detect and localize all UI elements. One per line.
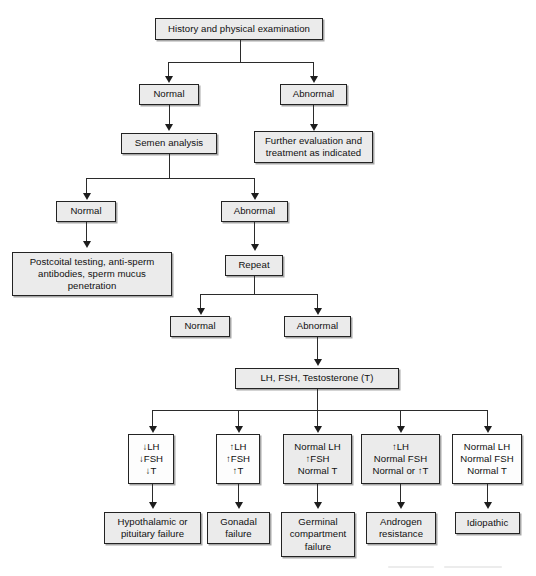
arrow-to-dx-hypothalamic (149, 502, 157, 509)
arrow-to-dx-idiopathic (484, 502, 492, 509)
arrow-to-hormone-panel (314, 359, 322, 366)
node-normal-3[interactable]: Normal (170, 316, 230, 337)
node-hormone-panel-high-lh-fsh-t[interactable]: ↑LH ↑FSH ↑T (216, 434, 260, 484)
arrow-to-normal-1 (165, 76, 173, 83)
connector-abnormal1-to-further (313, 105, 314, 126)
node-repeat[interactable]: Repeat (225, 255, 283, 276)
node-label-line-1: Normal LH (464, 441, 510, 453)
connector-level7-drop-4 (400, 410, 401, 428)
node-label: History and physical examination (168, 23, 310, 35)
arrow-to-dx-androgen (397, 502, 405, 509)
connector-abnormal3-to-hormones (317, 337, 318, 361)
connector-level7-bus (152, 410, 488, 411)
node-history-and-physical-examination[interactable]: History and physical examination (155, 18, 323, 40)
arrow-to-abnormal-1 (310, 76, 318, 83)
connector-semen-stem (169, 154, 170, 178)
node-label-line-3: Normal T (298, 465, 338, 477)
connector-level7-drop-5 (487, 410, 488, 428)
node-label: Repeat (238, 259, 269, 271)
node-label-line-2: Normal FSH (374, 453, 427, 465)
connector-history-stem (240, 40, 241, 62)
connector-level3-drop-left (86, 178, 87, 195)
connector-hormones-stem (317, 389, 318, 410)
node-label-line-2: pituitary failure (121, 528, 184, 540)
connector-panel1-to-dx1 (152, 484, 153, 504)
arrow-to-abnormal-3 (314, 308, 322, 315)
node-normal-2[interactable]: Normal (56, 201, 116, 222)
connector-abnormal2-to-repeat (254, 222, 255, 246)
arrow-to-postcoital-testing (83, 241, 91, 248)
arrow-to-further-evaluation (310, 124, 318, 131)
node-label-line-3: penetration (68, 280, 117, 292)
scan-artifact-2 (444, 566, 502, 568)
node-label-line-2: antibodies, sperm mucus (38, 268, 146, 280)
arrow-to-semen-analysis (165, 124, 173, 131)
node-lh-fsh-testosterone[interactable]: LH, FSH, Testosterone (T) (235, 368, 399, 389)
node-label-line-2: ↑FSH (226, 453, 250, 465)
node-label: Abnormal (293, 88, 334, 100)
node-diagnosis-gonadal-failure[interactable]: Gonadal failure (207, 512, 270, 544)
node-label-line-3: failure (305, 541, 331, 553)
node-postcoital-testing[interactable]: Postcoital testing, anti-sperm antibodie… (12, 252, 172, 296)
node-normal-1[interactable]: Normal (139, 84, 199, 105)
node-label-line-1: Germinal (298, 516, 337, 528)
node-diagnosis-idiopathic[interactable]: Idiopathic (455, 512, 520, 534)
node-label-line-1: Normal LH (294, 441, 340, 453)
node-hormone-panel-low-lh-fsh-t[interactable]: ↓LH ↓FSH ↓T (128, 434, 174, 484)
node-diagnosis-androgen-resistance[interactable]: Androgen resistance (366, 512, 436, 544)
node-label: Abnormal (234, 205, 275, 217)
connector-panel4-to-dx4 (400, 484, 401, 504)
node-diagnosis-germinal-compartment-failure[interactable]: Germinal compartment failure (281, 512, 355, 557)
node-hormone-panel-all-normal[interactable]: Normal LH Normal FSH Normal T (452, 434, 522, 484)
flowchart-canvas: History and physical examination Normal … (0, 0, 536, 576)
node-label-line-1: ↑LH (229, 441, 246, 453)
connector-repeat-stem (254, 276, 255, 294)
node-label: Abnormal (297, 320, 338, 332)
node-label: Idiopathic (467, 517, 509, 529)
node-abnormal-1[interactable]: Abnormal (280, 84, 347, 105)
arrow-to-abnormal-2 (251, 193, 259, 200)
node-label-line-2: treatment as indicated (266, 147, 362, 159)
connector-panel5-to-dx5 (487, 484, 488, 504)
arrow-to-panel-2 (235, 426, 243, 433)
node-label-line-1: Androgen (380, 516, 422, 528)
node-label: LH, FSH, Testosterone (T) (260, 372, 373, 384)
node-label-line-1: ↑LH (392, 441, 409, 453)
arrow-to-normal-3 (197, 308, 205, 315)
node-hormone-panel-high-lh-normal-fsh[interactable]: ↑LH Normal FSH Normal or ↑T (361, 434, 440, 484)
node-hormone-panel-normal-lh-high-fsh[interactable]: Normal LH ↑FSH Normal T (283, 434, 352, 484)
node-further-evaluation-and-treatment[interactable]: Further evaluation and treatment as indi… (254, 131, 373, 163)
node-label-line-1: Hypothalamic or (117, 516, 187, 528)
arrow-to-repeat (251, 244, 259, 251)
node-label-line-2: ↓FSH (139, 453, 163, 465)
node-label-line-1: Gonadal (220, 516, 257, 528)
connector-level3-drop-right (254, 178, 255, 195)
node-abnormal-3[interactable]: Abnormal (284, 316, 351, 337)
node-label: Semen analysis (135, 137, 203, 149)
arrow-to-panel-5 (484, 426, 492, 433)
connector-normal2-to-postcoital (86, 222, 87, 243)
node-label-line-2: failure (225, 528, 251, 540)
connector-normal1-to-semen (169, 105, 170, 126)
node-label-line-1: ↓LH (142, 441, 159, 453)
connector-level5-bus (200, 294, 318, 295)
arrow-to-panel-1 (149, 426, 157, 433)
node-label-line-2: Normal FSH (460, 453, 513, 465)
connector-panel2-to-dx2 (238, 484, 239, 504)
node-label: Normal (153, 88, 184, 100)
node-semen-analysis[interactable]: Semen analysis (121, 133, 217, 154)
node-label-line-3: Normal or ↑T (372, 465, 428, 477)
arrow-to-dx-gonadal (235, 502, 243, 509)
node-abnormal-2[interactable]: Abnormal (221, 201, 288, 222)
node-label-line-2: resistance (379, 528, 423, 540)
connector-level7-drop-3 (317, 410, 318, 428)
arrow-to-panel-4 (397, 426, 405, 433)
arrow-to-panel-3 (314, 426, 322, 433)
arrow-to-dx-germinal (314, 502, 322, 509)
arrow-to-normal-2 (83, 193, 91, 200)
node-diagnosis-hypothalamic-or-pituitary-failure[interactable]: Hypothalamic or pituitary failure (104, 512, 201, 544)
connector-level3-bus (86, 178, 255, 179)
connector-panel3-to-dx3 (317, 484, 318, 504)
node-label-line-1: Further evaluation and (265, 135, 362, 147)
connector-level1-bus (168, 62, 314, 63)
